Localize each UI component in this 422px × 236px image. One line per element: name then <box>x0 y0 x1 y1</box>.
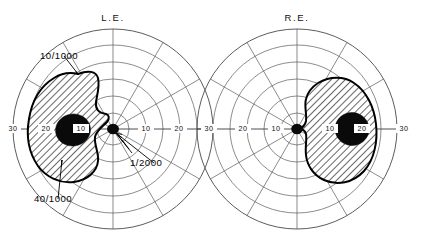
tick-label-left-eye-1: 20 <box>42 124 51 133</box>
perimetry-svg: L.E.30201010203010/100040/10001/2000 R.E… <box>0 0 422 236</box>
tick-label-right-eye-5: 30 <box>400 124 409 133</box>
tick-label-right-eye-0: 30 <box>205 124 214 133</box>
tick-label-right-eye-4: 20 <box>358 124 367 133</box>
eye-title-right-eye: R.E. <box>285 12 310 23</box>
tick-label-right-eye-2: 10 <box>272 124 281 133</box>
annotation-arrowhead-1 <box>61 160 62 166</box>
annotation-label-1-per-2000: 1/2000 <box>130 157 162 168</box>
tick-label-left-eye-4: 20 <box>175 124 184 133</box>
visual-field-figure: L.E.30201010203010/100040/10001/2000 R.E… <box>0 0 422 236</box>
tick-label-right-eye-1: 20 <box>239 124 248 133</box>
annotation-label-10-per-1000: 10/1000 <box>40 50 78 61</box>
tick-label-left-eye-2: 10 <box>77 124 86 133</box>
tick-label-left-eye-3: 10 <box>142 124 151 133</box>
eye-title-left-eye: L.E. <box>101 12 124 23</box>
fixation-point <box>291 124 303 134</box>
tick-label-left-eye-0: 30 <box>9 124 18 133</box>
tick-label-right-eye-3: 10 <box>326 124 335 133</box>
fixation-point <box>107 124 119 134</box>
annotation-label-40-per-1000: 40/1000 <box>34 193 72 204</box>
